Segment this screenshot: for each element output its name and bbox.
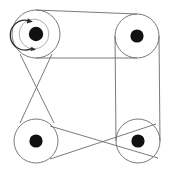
pulley-bottom-right	[116, 119, 160, 163]
left-crossed-belt	[20, 54, 54, 123]
pulley-top-left	[10, 10, 60, 58]
pulley-top-right	[115, 14, 159, 58]
hub-icon	[29, 27, 43, 41]
hub-icon	[29, 134, 42, 147]
hub-icon	[130, 29, 143, 42]
right-belt-strand-outer	[159, 36, 160, 141]
pulley-bottom-left	[14, 119, 58, 163]
top-belt-strand-upper	[36, 10, 137, 14]
belt-pulley-diagram	[0, 0, 171, 176]
right-belt-strand-inner	[115, 36, 116, 141]
top-belt	[36, 10, 137, 58]
diagram-canvas	[0, 0, 171, 176]
hub-icon	[131, 134, 144, 147]
